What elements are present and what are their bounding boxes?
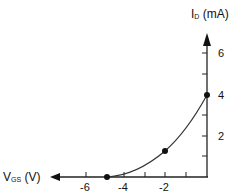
x-tick-label: -4 <box>118 182 128 193</box>
transfer-curve <box>107 95 207 177</box>
y-tick-label: 6 <box>218 48 224 59</box>
chart-canvas <box>0 0 233 194</box>
data-point <box>104 174 110 180</box>
data-point <box>162 148 168 154</box>
x-tick-label: -2 <box>159 182 169 193</box>
y-axis-arrow-icon <box>203 33 211 46</box>
x-tick-label: -6 <box>80 182 90 193</box>
x-axis-label: VGS (V) <box>3 171 40 186</box>
y-axis-label: ID (mA) <box>191 8 229 23</box>
x-ticks <box>86 172 186 177</box>
data-point <box>204 92 210 98</box>
y-tick-label: 4 <box>218 90 224 101</box>
x-axis-arrow-icon <box>50 173 60 181</box>
y-tick-label: 2 <box>218 131 224 142</box>
y-ticks <box>202 53 207 156</box>
